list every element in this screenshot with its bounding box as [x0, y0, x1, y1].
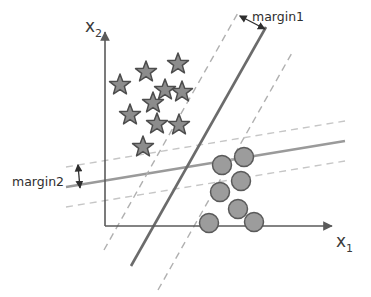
x-axis-label: x 1 [336, 231, 353, 255]
circle-data-point [235, 148, 254, 167]
y-axis-label-main: x [85, 16, 95, 36]
diagram-canvas: margin1 margin2 x 2 x 1 [0, 0, 371, 297]
x-axis-label-sub: 1 [346, 242, 353, 255]
star-data-point [136, 61, 157, 81]
star-data-point [147, 113, 168, 133]
y-axis-label: x 2 [85, 16, 102, 40]
steep-decision-boundary-line [131, 27, 266, 266]
shallow-decision-boundary-line [66, 141, 345, 187]
margin2-label: margin2 [12, 174, 64, 189]
star-data-point [155, 79, 176, 99]
circle-data-point [232, 172, 251, 191]
margin1-annotation: margin1 [240, 9, 304, 29]
star-data-point [110, 74, 131, 94]
x-axis-label-main: x [336, 231, 346, 251]
star-data-point [168, 53, 189, 73]
shallow-margin-lower-line [66, 161, 345, 207]
circle-data-point [229, 200, 248, 219]
star-data-point [120, 104, 141, 124]
circle-data-point [245, 213, 264, 232]
circle-data-point [213, 156, 232, 175]
circle-data-point [211, 183, 230, 202]
star-marker-group [110, 53, 193, 156]
shallow-margin-upper-line [66, 121, 345, 167]
y-axis-label-sub: 2 [95, 27, 102, 40]
steep-classifier-group [104, 11, 293, 290]
steep-margin-lower-line [104, 11, 239, 250]
circle-data-point [200, 214, 219, 233]
margin1-label: margin1 [252, 9, 304, 24]
svm-margin-diagram: margin1 margin2 x 2 x 1 [0, 0, 371, 297]
